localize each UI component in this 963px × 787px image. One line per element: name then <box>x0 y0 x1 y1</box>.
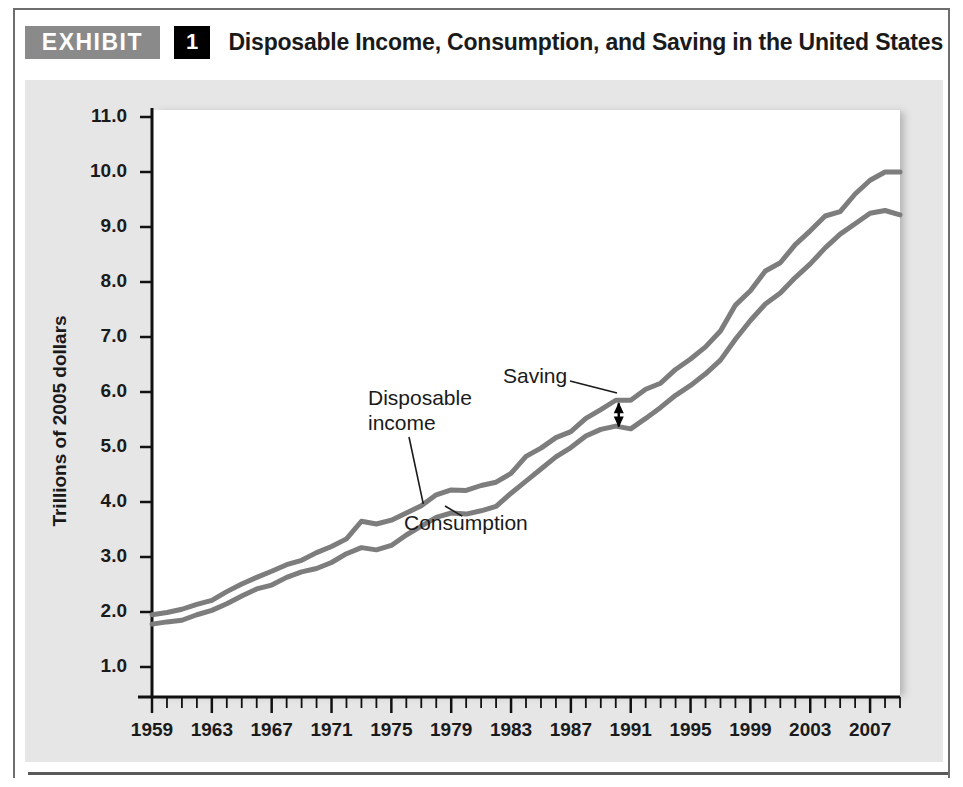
y-tick-label: 8.0 <box>67 270 127 292</box>
y-tick-label: 5.0 <box>67 435 127 457</box>
y-tick-label: 3.0 <box>67 545 127 567</box>
y-tick-label: 11.0 <box>67 105 127 127</box>
series-label-disposable-income: Disposable income <box>368 385 472 435</box>
exhibit-header: EXHIBIT 1 Disposable Income, Consumption… <box>25 18 943 66</box>
exhibit-title: Disposable Income, Consumption, and Savi… <box>228 29 943 56</box>
exhibit-badge: EXHIBIT <box>25 26 160 59</box>
y-axis-title: Trillions of 2005 dollars <box>49 261 71 581</box>
x-tick-label: 1971 <box>302 719 362 741</box>
y-tick-label: 2.0 <box>67 600 127 622</box>
page-frame-right <box>948 8 950 778</box>
series-label-saving: Saving <box>503 364 567 388</box>
x-tick-label: 1967 <box>242 719 302 741</box>
y-tick-label: 7.0 <box>67 325 127 347</box>
plot-canvas <box>152 110 900 698</box>
x-tick-label: 2007 <box>840 719 900 741</box>
x-tick-label: 2003 <box>780 719 840 741</box>
series-label-disposable-income-line1: Disposable <box>368 385 472 410</box>
x-tick-label: 1979 <box>421 719 481 741</box>
y-tick-label: 10.0 <box>67 160 127 182</box>
exhibit-number-badge: 1 <box>174 26 211 59</box>
series-label-disposable-income-line2: income <box>368 410 472 435</box>
page-frame-left <box>13 8 15 778</box>
x-tick-label: 1975 <box>361 719 421 741</box>
page-frame-top <box>13 8 950 10</box>
x-tick-label: 1959 <box>122 719 182 741</box>
series-label-consumption: Consumption <box>404 511 528 535</box>
y-tick-label: 6.0 <box>67 380 127 402</box>
x-tick-label: 1963 <box>182 719 242 741</box>
exhibit-figure: EXHIBIT 1 Disposable Income, Consumption… <box>0 0 963 787</box>
y-tick-label: 9.0 <box>67 215 127 237</box>
y-tick-label: 1.0 <box>67 655 127 677</box>
bottom-rule <box>28 772 948 775</box>
x-tick-label: 1995 <box>661 719 721 741</box>
y-tick-label: 4.0 <box>67 490 127 512</box>
x-tick-label: 1983 <box>481 719 541 741</box>
x-tick-label: 1987 <box>541 719 601 741</box>
x-tick-label: 1999 <box>720 719 780 741</box>
x-tick-label: 1991 <box>601 719 661 741</box>
